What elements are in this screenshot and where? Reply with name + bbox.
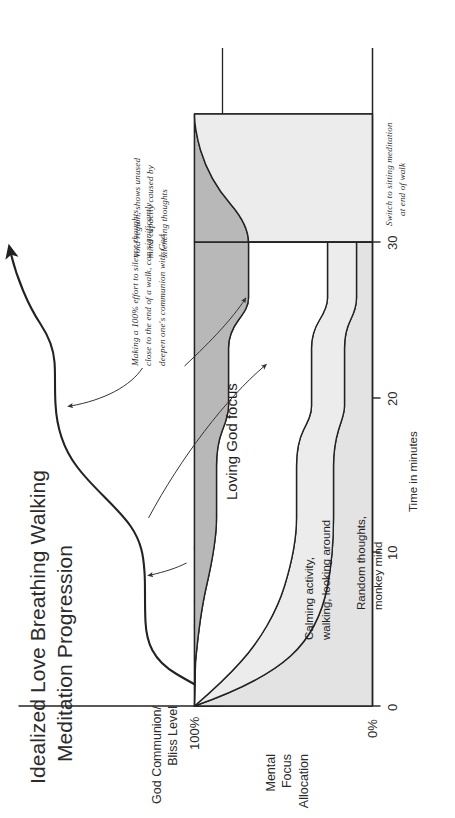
xtick-label-20: 20 <box>384 392 399 406</box>
band-label-random-thoughts: Random thoughts, monkey mind <box>352 470 385 610</box>
top-chart-y-axis-label: God Communion/ Bliss Level <box>148 706 181 810</box>
band-label-random-line1: Random thoughts, <box>352 470 369 610</box>
figure-canvas: Idealized Love Breathing Walking Meditat… <box>0 0 455 818</box>
annotation-void-line3: silencing thoughts <box>157 98 170 258</box>
annotation-switch-to-sitting: Switch to sitting meditation at end of w… <box>382 51 409 226</box>
bottom-chart-x-axis-label: Time in minutes <box>406 431 418 512</box>
rotated-figure-wrapper: Idealized Love Breathing Walking Meditat… <box>0 0 455 818</box>
annotation-effort-leader <box>70 368 142 406</box>
top-chart-y-axis-label-line1: God Communion/ <box>148 706 164 810</box>
bottom-chart-y-axis-label-line1: Mental Focus <box>262 754 295 818</box>
bottom-chart-y-axis-label-line2: Allocation <box>295 754 311 818</box>
annotation-void-region: Void region, shows unused mind capacity … <box>130 98 170 258</box>
annotation-switch-line1: Switch to sitting meditation <box>382 51 395 226</box>
bottom-chart-y-axis-label: Mental Focus Allocation <box>262 754 311 818</box>
band-label-random-line2: monkey mind <box>369 470 386 610</box>
xtick-label-10: 10 <box>384 546 399 560</box>
band-label-calming-activity: Calming activity, walking, looking aroun… <box>300 470 333 640</box>
band-label-calming-line2: walking, looking around <box>317 470 334 640</box>
ytick-label-100: 100% <box>186 717 201 750</box>
annotation-calm-leader <box>150 563 186 575</box>
annotation-switch-line2: at end of walk <box>395 51 408 226</box>
xtick-label-30: 30 <box>384 236 399 250</box>
band-label-loving-god-focus: Loving God focus <box>222 383 239 500</box>
ytick-label-0: 0% <box>364 719 379 738</box>
annotation-void-line1: Void region, shows unused <box>130 98 143 258</box>
top-chart-y-axis-label-line2: Bliss Level <box>164 706 180 810</box>
xtick-label-0: 0 <box>384 704 399 711</box>
band-label-calming-line1: Calming activity, <box>300 470 317 640</box>
annotation-void-line2: mind capacity caused by <box>143 98 156 258</box>
